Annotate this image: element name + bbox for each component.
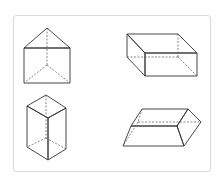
cuboid-front-face [145, 53, 197, 76]
trapezoidal-prism-front-face [123, 126, 184, 146]
trapezoidal-prism-hidden-edge [123, 122, 138, 146]
triangular-prism-top-face [24, 28, 70, 48]
triangular-prism-hidden-edge [47, 65, 70, 83]
triangular-prism-hidden-edge [24, 65, 47, 83]
rhombic-prism-left-face [27, 106, 48, 160]
rhombic-prism-hidden-edge [46, 138, 66, 149]
rhombic-prism-top-face [27, 95, 66, 118]
trapezoidal-prism [123, 109, 201, 146]
trapezoidal-prism-hidden-edge [138, 109, 142, 122]
trapezoidal-prism-end-face [177, 109, 201, 146]
cuboid-top-face [127, 34, 197, 53]
cuboid-hidden-edge [178, 57, 197, 76]
rhombic-prism-hidden-edge [27, 138, 46, 147]
rectangular-cuboid [127, 34, 197, 76]
triangular-prism [24, 28, 70, 83]
cuboid-left-face [127, 34, 145, 76]
rhombic-prism-right-face [48, 108, 66, 160]
rhombic-prism [27, 95, 66, 160]
prisms-diagram [0, 0, 222, 187]
